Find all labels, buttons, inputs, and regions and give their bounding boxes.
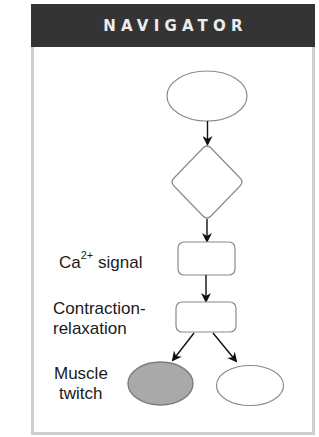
contraction-label-line1: Contraction- — [53, 299, 146, 319]
decision-diamond — [172, 146, 242, 218]
muscle-twitch-ellipse — [128, 362, 193, 405]
arrow-to-muscle-twitch — [173, 333, 194, 360]
ca-label-rest: signal — [93, 253, 142, 272]
contraction-relaxation-label: Contraction- relaxation — [53, 299, 146, 339]
contraction-label-line2: relaxation — [53, 319, 146, 339]
contraction-box — [176, 302, 236, 332]
ca-label-base: Ca — [59, 253, 81, 272]
top-ellipse — [167, 71, 247, 121]
ca-signal-label: Ca2+ signal — [59, 247, 142, 273]
muscle-twitch-label: Muscle twitch — [54, 364, 108, 404]
muscle-label-line1: Muscle — [54, 364, 108, 384]
flow-diagram — [0, 0, 319, 437]
ca-signal-box — [178, 242, 235, 275]
muscle-label-line2: twitch — [54, 384, 108, 404]
arrow-to-right-ellipse — [213, 333, 236, 361]
right-ellipse — [217, 366, 284, 406]
ca-label-superscript: 2+ — [81, 249, 94, 261]
